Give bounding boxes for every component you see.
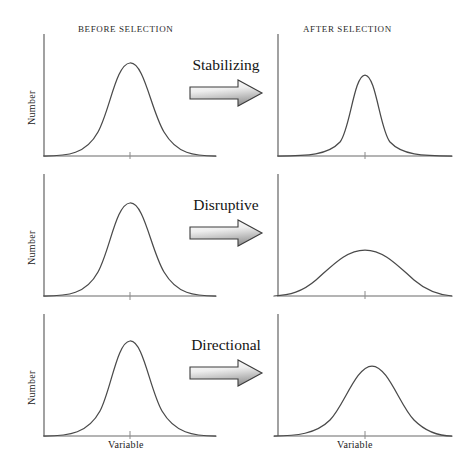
distribution-curve <box>278 75 452 156</box>
arrow-shape <box>190 220 262 246</box>
right-block-arrow-icon <box>188 358 264 388</box>
selection-modes-figure: BEFORE SELECTION AFTER SELECTION Number … <box>0 0 462 468</box>
arrow-disruptive <box>167 218 285 248</box>
distribution-curve <box>274 250 452 296</box>
transition-stabilizing: Stabilizing <box>167 56 285 108</box>
y-axis-label-row2: Number <box>26 230 37 265</box>
curve-svg <box>272 170 454 302</box>
plot-directional-after <box>272 310 454 442</box>
arrow-shape <box>190 360 262 386</box>
transition-label-stabilizing: Stabilizing <box>167 56 285 74</box>
x-axis-label-before: Variable <box>108 439 144 450</box>
curve-svg <box>272 310 454 442</box>
arrow-directional <box>167 358 285 388</box>
right-block-arrow-icon <box>188 78 264 108</box>
transition-disruptive: Disruptive <box>167 196 285 248</box>
plot-disruptive-after <box>272 170 454 302</box>
curve-svg <box>272 30 454 162</box>
transition-directional: Directional <box>167 336 285 388</box>
plot-stabilizing-after <box>272 30 454 162</box>
x-axis-label-after: Variable <box>337 439 373 450</box>
distribution-curve <box>274 366 452 436</box>
y-axis-label-row1: Number <box>26 90 37 125</box>
arrow-shape <box>190 80 262 106</box>
transition-label-disruptive: Disruptive <box>167 196 285 214</box>
arrow-stabilizing <box>167 78 285 108</box>
transition-label-directional: Directional <box>167 336 285 354</box>
right-block-arrow-icon <box>188 218 264 248</box>
y-axis-label-row3: Number <box>26 370 37 405</box>
